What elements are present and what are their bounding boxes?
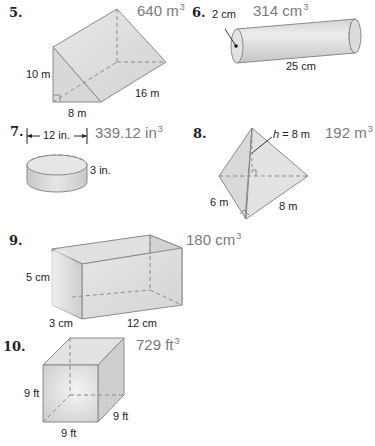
label-cylinder-radius: 2 cm	[212, 8, 236, 20]
label-prism-height: 10 m	[26, 68, 50, 80]
long-cylinder-figure	[225, 19, 361, 63]
answer-8: 192 m3	[325, 124, 373, 141]
answer-9: 180 cm3	[186, 231, 241, 248]
label-pyramid-side-a: 6 m	[210, 196, 228, 208]
cube-figure	[43, 338, 124, 422]
label-box-height: 5 cm	[26, 271, 50, 283]
problem-number-5: 5.	[9, 5, 23, 20]
answer-7: 339.12 in3	[95, 124, 163, 141]
problem-number-7: 7.	[10, 124, 24, 139]
label-box-length: 12 cm	[127, 317, 157, 329]
label-cube-height: 9 ft	[24, 387, 39, 399]
problem-number-9: 9.	[9, 233, 23, 248]
label-prism-length: 16 m	[135, 87, 159, 99]
label-pyramid-height: h = 8 m	[273, 128, 310, 140]
answer-6: 314 cm3	[253, 2, 308, 19]
answer-10: 729 ft3	[136, 336, 180, 353]
label-pyramid-side-b: 8 m	[279, 200, 297, 212]
answer-5: 640 m3	[137, 2, 185, 19]
figures-canvas	[0, 0, 375, 446]
problem-number-10: 10.	[3, 339, 26, 354]
label-cylinder-diameter: 12 in.	[43, 129, 70, 141]
label-cylinder-length: 25 cm	[286, 60, 316, 72]
label-cylinder-height: 3 in.	[90, 164, 111, 176]
label-box-width: 3 cm	[49, 317, 73, 329]
problem-number-6: 6.	[192, 5, 206, 20]
label-cube-depth: 9 ft	[113, 410, 128, 422]
label-prism-base: 8 m	[68, 107, 86, 119]
label-cube-width: 9 ft	[61, 427, 76, 439]
rectangular-prism-figure	[36, 235, 182, 330]
problem-number-8: 8.	[193, 126, 207, 141]
